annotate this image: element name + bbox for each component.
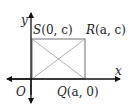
point-s-name: S [33, 23, 41, 37]
point-r-label: R(a, c) [85, 23, 126, 37]
y-axis-label: y [20, 13, 28, 27]
coordinate-diagram: y x O S(0, c) R(a, c) Q(a, 0) [0, 0, 138, 107]
point-r-coords: (a, c) [95, 23, 126, 37]
point-r-name: R [85, 23, 95, 37]
point-s-label: S(0, c) [33, 23, 73, 37]
x-axis-label: x [115, 64, 122, 78]
origin-label: O [16, 85, 26, 99]
point-q-name: Q [57, 85, 67, 99]
point-q-label: Q(a, 0) [57, 85, 99, 99]
point-q-coords: (a, 0) [67, 85, 99, 99]
point-s-coords: (0, c) [41, 23, 72, 37]
